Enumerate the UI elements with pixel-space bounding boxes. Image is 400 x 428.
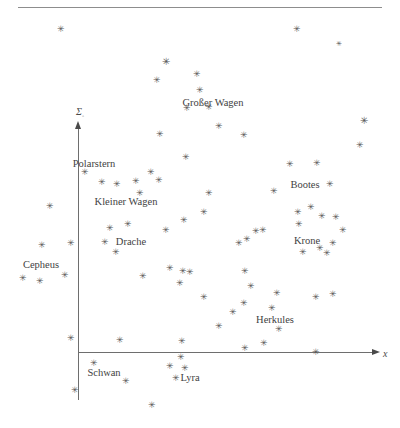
star-marker: ✳	[186, 268, 194, 277]
star-marker: ✳	[326, 180, 334, 189]
star-marker: ✳	[229, 308, 237, 317]
constellation-label-gro-er-wagen: Großer Wagen	[182, 97, 243, 108]
star-marker: ✳	[215, 122, 223, 131]
star-marker: ✳	[318, 212, 326, 221]
star-marker: ✳	[235, 239, 243, 248]
y-axis-label: Σ◦	[76, 106, 84, 119]
star-marker: ✳	[71, 386, 79, 395]
star-marker: ✳	[259, 226, 267, 235]
star-marker: ✳	[124, 220, 132, 229]
star-marker: ✳	[153, 76, 161, 85]
star-marker: ✳	[67, 334, 75, 343]
star-marker: ✳	[240, 131, 248, 140]
star-marker: ✳	[336, 41, 342, 48]
constellation-label-bootes: Bootes	[290, 179, 319, 190]
star-marker: ✳	[148, 401, 156, 410]
constellation-label-kleiner-wagen: Kleiner Wagen	[95, 196, 158, 207]
star-marker: ✳	[155, 176, 163, 185]
star-marker: ✳	[294, 208, 302, 217]
page-top-rule	[18, 7, 382, 8]
y-axis-line	[78, 128, 79, 400]
constellation-label-drache: Drache	[116, 236, 146, 247]
star-marker: ✳	[101, 238, 109, 247]
star-marker: ✳	[61, 271, 69, 280]
star-marker: ✳	[112, 248, 120, 257]
star-marker: ✳	[122, 377, 130, 386]
star-marker: ✳	[312, 293, 320, 302]
star-marker: ✳	[360, 116, 368, 126]
star-chart-figure: x Σ◦ ✳✳✳✳✳✳✳✳✳✳✳✳✳✳✳✳✳✳✳✳✳✳✳✳✳✳✳✳✳✳✳✳✳✳✳…	[0, 0, 400, 428]
star-marker: ✳	[57, 25, 65, 34]
star-marker: ✳	[312, 348, 320, 357]
star-marker: ✳	[200, 293, 208, 302]
star-marker: ✳	[215, 322, 223, 331]
constellation-label-cepheus: Cepheus	[23, 259, 59, 270]
x-axis-arrowhead	[372, 349, 380, 355]
star-marker: ✳	[139, 272, 147, 281]
star-marker: ✳	[313, 159, 321, 168]
star-marker: ✳	[293, 25, 301, 34]
star-marker: ✳	[106, 224, 114, 233]
star-marker: ✳	[205, 189, 213, 198]
star-marker: ✳	[132, 177, 140, 186]
star-marker: ✳	[307, 203, 315, 212]
star-marker: ✳	[147, 168, 155, 177]
constellation-label-lyra: Lyra	[180, 372, 199, 383]
star-marker: ✳	[273, 289, 281, 298]
star-marker: ✳	[329, 290, 337, 299]
x-axis-line	[78, 352, 372, 353]
star-marker: ✳	[339, 226, 347, 235]
star-marker: ✳	[243, 235, 251, 244]
star-marker: ✳	[113, 180, 121, 189]
star-marker: ✳	[241, 344, 249, 353]
star-marker: ✳	[356, 141, 364, 150]
star-marker: ✳	[268, 304, 276, 313]
star-marker: ✳	[19, 274, 27, 283]
star-marker: ✳	[286, 160, 294, 169]
star-marker: ✳	[36, 277, 44, 286]
star-marker: ✳	[38, 241, 46, 250]
constellation-label-krone: Krone	[294, 235, 320, 246]
star-marker: ✳	[166, 264, 174, 273]
star-marker: ✳	[162, 57, 170, 67]
star-marker: ✳	[200, 208, 208, 217]
constellation-label-herkules: Herkules	[256, 314, 294, 325]
star-marker: ✳	[176, 279, 184, 288]
star-marker: ✳	[275, 325, 283, 334]
y-axis-label-subscript: ◦	[82, 113, 84, 119]
star-marker: ✳	[323, 249, 331, 258]
star-marker: ✳	[177, 353, 185, 362]
y-axis-arrowhead	[75, 121, 81, 129]
star-marker: ✳	[270, 187, 278, 196]
star-marker: ✳	[98, 178, 106, 187]
star-marker: ✳	[81, 168, 89, 177]
star-marker: ✳	[332, 213, 340, 222]
star-marker: ✳	[178, 337, 186, 346]
star-marker: ✳	[180, 216, 188, 225]
star-marker: ✳	[172, 374, 180, 383]
star-marker: ✳	[166, 362, 174, 371]
x-axis-label: x	[383, 348, 387, 359]
star-marker: ✳	[193, 70, 201, 79]
star-marker: ✳	[67, 239, 75, 248]
star-marker: ✳	[329, 239, 337, 248]
star-marker: ✳	[295, 220, 303, 229]
star-marker: ✳	[116, 336, 124, 345]
star-marker: ✳	[156, 130, 164, 139]
star-marker: ✳	[299, 248, 307, 257]
star-marker: ✳	[240, 299, 248, 308]
constellation-label-polarstern: Polarstern	[73, 158, 116, 169]
star-marker: ✳	[260, 339, 268, 348]
constellation-label-schwan: Schwan	[87, 367, 120, 378]
star-marker: ✳	[162, 226, 170, 235]
star-marker: ✳	[241, 267, 249, 276]
star-marker: ✳	[247, 282, 255, 291]
star-marker: ✳	[196, 86, 204, 95]
star-marker: ✳	[46, 202, 54, 211]
star-marker: ✳	[182, 153, 190, 162]
